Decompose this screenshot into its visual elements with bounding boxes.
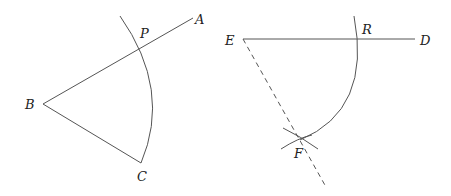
segment-BC <box>43 104 141 163</box>
label-R: R <box>361 22 372 37</box>
label-E: E <box>224 33 235 48</box>
label-A: A <box>194 12 204 27</box>
label-F: F <box>293 146 304 161</box>
geometry-construction-diagram: A P B C E R D F <box>0 0 451 196</box>
label-B: B <box>24 97 35 112</box>
label-P: P <box>139 26 149 41</box>
diagram-svg: A P B C E R D F <box>0 0 451 196</box>
label-D: D <box>419 33 431 48</box>
dashed-line-EF <box>243 39 326 187</box>
label-C: C <box>137 169 147 184</box>
arc-centered-E <box>300 16 358 140</box>
ray-BA <box>43 18 193 104</box>
